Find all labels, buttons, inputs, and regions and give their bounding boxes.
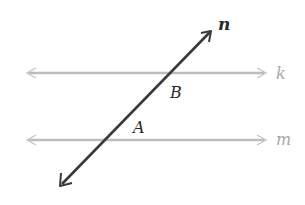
line-k: [27, 68, 266, 78]
label-point-b: B: [169, 83, 182, 102]
label-point-a: A: [131, 118, 145, 137]
label-n: n: [218, 14, 230, 34]
line-m: [27, 135, 266, 145]
label-m: m: [276, 130, 291, 149]
line-n-transversal: [60, 31, 211, 186]
parallel-lines-transversal-diagram: n k m B A: [0, 0, 305, 205]
label-k: k: [276, 64, 286, 83]
